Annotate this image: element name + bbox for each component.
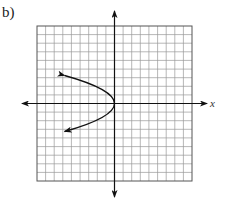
x-axis-label: x xyxy=(209,97,215,109)
coordinate-plane: x xyxy=(0,0,227,210)
